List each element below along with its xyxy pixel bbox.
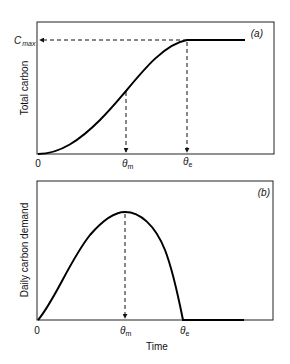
panel-b-label: (b) [258, 187, 270, 198]
panel-b-theta-m-label: θm [120, 325, 131, 337]
panel-a-theta-m-label: θm [122, 158, 133, 170]
panel-a-frame [37, 22, 274, 154]
panel-a-label: (a) [251, 28, 263, 39]
daily-carbon-demand-curve [38, 212, 244, 320]
panel-b-origin-label: 0 [34, 325, 40, 336]
panel-a-origin-label: 0 [35, 158, 41, 169]
panel-b: (b) Daily carbon demand 0 θm θe Time [19, 181, 273, 352]
cmax-label: Cmax [14, 35, 36, 47]
panel-a: (a) Cmax Total carbon 0 θm θe [14, 22, 274, 170]
panel-b-xlabel: Time [146, 341, 168, 352]
total-carbon-curve [38, 40, 245, 154]
panel-b-theta-e-label: θe [180, 325, 189, 337]
panel-b-frame [37, 181, 273, 320]
figure: (a) Cmax Total carbon 0 θm θe (b) Daily … [0, 0, 290, 364]
panel-b-ylabel: Daily carbon demand [19, 203, 30, 298]
panel-a-theta-e-label: θe [183, 156, 192, 168]
panel-a-ylabel: Total carbon [19, 61, 30, 115]
